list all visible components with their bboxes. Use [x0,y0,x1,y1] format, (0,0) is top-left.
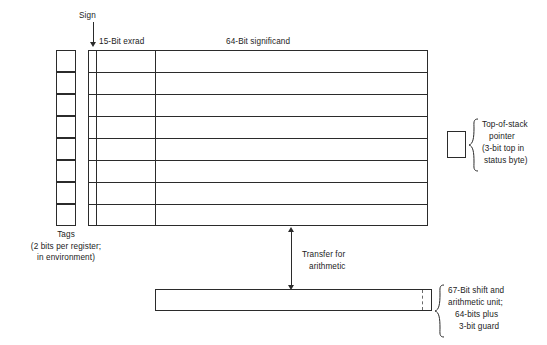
tag-cell [56,50,76,72]
top-of-stack-label-line2: pointer [489,131,515,142]
register-row-divider [88,116,428,117]
top-of-stack-label-line4: status byte) [484,155,528,166]
register-row-divider [88,138,428,139]
guard-bits-divider [422,290,423,310]
transfer-arrow-shaft [291,231,292,286]
floating-point-register-stack-diagram: Sign 15-Bit exrad 64-Bit significand Tag… [0,0,547,345]
tag-cell [56,182,76,204]
exponent-field-label: 15-Bit exrad [99,36,144,47]
top-of-stack-pointer-box [447,131,466,158]
register-row-divider [88,182,428,183]
tag-cell [56,138,76,160]
tag-cell [56,72,76,94]
sign-label: Sign [79,10,96,21]
shift-unit-brace-icon [434,284,446,338]
shift-unit-label-line2: arithmetic unit; [448,297,503,308]
sign-arrow-head-icon [90,42,96,47]
transfer-label-line1: Transfer for [302,249,345,260]
sign-pointer-line [93,22,94,43]
register-row-divider [88,160,428,161]
tag-cell [56,116,76,138]
shift-unit-label-line3: 64-bits plus [455,309,498,320]
tag-cell [56,204,76,226]
shift-arithmetic-unit-bar [155,289,432,311]
top-of-stack-brace-icon [468,118,480,172]
significand-field-label: 64-Bit significand [226,36,290,47]
tag-cell [56,94,76,116]
top-of-stack-label-line1: Top-of-stack [482,119,528,130]
register-row-divider [88,72,428,73]
shift-unit-label-line1: 67-Bit shift and [448,285,504,296]
register-row-divider [88,204,428,205]
shift-unit-label-line4: 3-bit guard [459,321,499,332]
tags-title-label: Tags [26,229,106,240]
transfer-label-line2: arithmetic [309,261,346,272]
tags-note-line1: (2 bits per register; [6,241,126,252]
register-row-divider [88,94,428,95]
tag-cell [56,160,76,182]
tags-note-line2: in environment) [6,252,126,263]
top-of-stack-label-line3: (3-bit top in [482,143,524,154]
